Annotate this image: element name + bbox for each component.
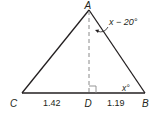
vertex-label-a: A bbox=[84, 0, 92, 11]
arrowhead-icon bbox=[95, 30, 99, 34]
vertex-label-c: C bbox=[10, 98, 18, 109]
vertex-label-d: D bbox=[85, 98, 92, 109]
triangle-diagram: A x − 20° x° C 1.42 D 1.19 B bbox=[0, 0, 155, 122]
angle-label-bad: x − 20° bbox=[108, 17, 138, 27]
side-ca bbox=[22, 10, 89, 93]
right-angle-marker bbox=[89, 86, 96, 93]
segment-label-db: 1.19 bbox=[107, 98, 125, 108]
segment-label-cd: 1.42 bbox=[43, 98, 61, 108]
vertex-label-b: B bbox=[142, 98, 149, 109]
angle-label-b: x° bbox=[121, 83, 130, 93]
